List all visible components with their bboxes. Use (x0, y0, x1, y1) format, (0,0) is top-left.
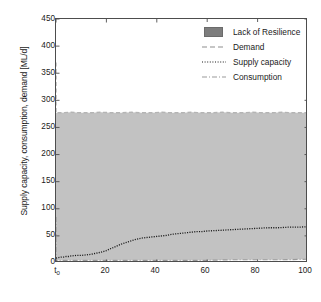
x-tick-label-80: 80 (235, 266, 275, 276)
x-tick-label-t0: t0 (37, 266, 77, 276)
dashdot-line-icon (201, 71, 227, 83)
y-tick-label-300: 300 (11, 95, 55, 104)
y-tick-label-200: 200 (11, 149, 55, 158)
y-tick-label-150: 150 (11, 176, 55, 185)
y-tick-label-50: 50 (11, 230, 55, 239)
chart-legend: Lack of Resilience Demand Supply capacit… (196, 22, 306, 88)
legend-label-supply-capacity: Supply capacity (233, 57, 291, 67)
y-tick-label-100: 100 (11, 203, 55, 212)
legend-label-demand: Demand (233, 42, 264, 52)
legend-item-supply-capacity: Supply capacity (196, 55, 306, 69)
y-tick-label-0: 0 (11, 257, 55, 266)
chart-figure: Supply capacity, consumption, demand [ML… (0, 0, 321, 302)
legend-label-lack-of-resilience: Lack of Resilience (233, 27, 300, 37)
y-tick-label-450: 450 (11, 14, 55, 23)
legend-label-consumption: Consumption (233, 72, 282, 82)
dotted-line-icon (201, 56, 227, 68)
x-tick-label-60: 60 (185, 266, 225, 276)
y-tick-label-350: 350 (11, 68, 55, 77)
y-axis-label: Supply capacity, consumption, demand [ML… (17, 0, 31, 262)
y-tick-label-250: 250 (11, 122, 55, 131)
legend-patch-icon (201, 26, 227, 38)
legend-item-demand: Demand (196, 40, 306, 54)
x-tick-label-100: 100 (285, 266, 321, 276)
x-tick-label-40: 40 (135, 266, 175, 276)
lack-of-resilience-band (56, 112, 307, 260)
dashed-line-icon (201, 41, 227, 53)
legend-item-consumption: Consumption (196, 70, 306, 84)
legend-item-lack-of-resilience: Lack of Resilience (196, 25, 306, 39)
y-tick-label-400: 400 (11, 41, 55, 50)
x-tick-label-20: 20 (85, 266, 125, 276)
x-tick-subscript: 0 (56, 270, 59, 276)
